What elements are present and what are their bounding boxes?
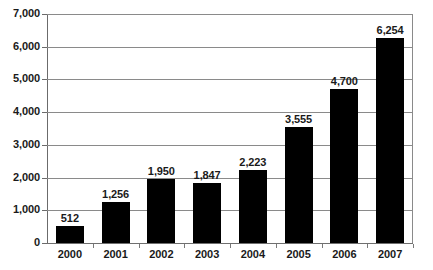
bar-value-label-2003: 1,847 (177, 169, 237, 181)
y-axis-tick (42, 178, 47, 179)
y-axis-tick (42, 145, 47, 146)
bar-2005 (285, 127, 313, 243)
gridline (47, 47, 413, 48)
y-axis-tick (42, 210, 47, 211)
y-axis-tick (42, 79, 47, 80)
bar-chart: 01,0002,0003,0004,0005,0006,0007,000 512… (0, 0, 433, 270)
y-axis-tick (42, 112, 47, 113)
bar-value-label-2005: 3,555 (269, 113, 329, 125)
bar-value-label-2004: 2,223 (223, 156, 283, 168)
y-axis-tick-label: 0 (0, 236, 40, 248)
bar-2000 (56, 226, 84, 243)
y-axis-tick (42, 14, 47, 15)
y-axis-tick-label: 1,000 (0, 203, 40, 215)
bar-2004 (239, 170, 267, 243)
bar-value-label-2006: 4,700 (314, 75, 374, 87)
bar-value-label-2000: 512 (40, 212, 100, 224)
bar-value-label-2001: 1,256 (86, 188, 146, 200)
y-axis-tick-label: 7,000 (0, 7, 40, 19)
bar-2002 (147, 179, 175, 243)
bar-value-label-2007: 6,254 (360, 24, 420, 36)
y-axis-tick-label: 3,000 (0, 138, 40, 150)
gridline (47, 14, 413, 15)
y-axis-tick-label: 5,000 (0, 72, 40, 84)
bar-2006 (330, 89, 358, 243)
y-axis-tick (42, 243, 47, 244)
gridline (47, 112, 413, 113)
y-axis-tick (42, 47, 47, 48)
gridline (47, 145, 413, 146)
bar-2007 (376, 38, 404, 243)
y-axis-tick-label: 6,000 (0, 40, 40, 52)
bar-2001 (102, 202, 130, 243)
y-axis-tick-label: 4,000 (0, 105, 40, 117)
bar-2003 (193, 183, 221, 243)
y-axis-tick-label: 2,000 (0, 171, 40, 183)
x-axis-label-2007: 2007 (360, 248, 420, 260)
